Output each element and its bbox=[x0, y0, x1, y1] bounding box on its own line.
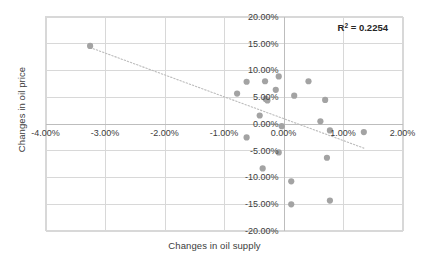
y-tick-label: 5.00% bbox=[253, 92, 279, 102]
data-point bbox=[317, 118, 323, 124]
x-tick-label: 1.00% bbox=[330, 128, 356, 138]
x-tick-label: -3.00% bbox=[91, 128, 120, 138]
y-tick-label: 20.00% bbox=[248, 12, 279, 22]
y-tick-label: -10.00% bbox=[245, 172, 279, 182]
scatter-chart: Changes in oil price Changes in oil supp… bbox=[0, 0, 429, 262]
data-point bbox=[291, 93, 297, 99]
data-point bbox=[262, 78, 268, 84]
x-tick-label: -4.00% bbox=[31, 128, 60, 138]
r-squared-text: R2 = 0.2254 bbox=[338, 22, 389, 33]
y-tick-label: 15.00% bbox=[248, 39, 279, 49]
y-tick-label: -5.00% bbox=[250, 146, 279, 156]
data-point bbox=[260, 165, 266, 171]
y-axis-tick-labels: 20.00%15.00%10.00%5.00%0.00%-5.00%-10.00… bbox=[245, 12, 279, 236]
y-tick-label: 10.00% bbox=[248, 65, 279, 75]
data-point bbox=[234, 90, 240, 96]
data-point bbox=[324, 155, 330, 161]
y-tick-label: 0.00% bbox=[253, 119, 279, 129]
data-point bbox=[288, 178, 294, 184]
data-point bbox=[288, 201, 294, 207]
data-point bbox=[322, 97, 328, 103]
y-tick-label: -15.00% bbox=[245, 199, 279, 209]
data-point bbox=[305, 78, 311, 84]
x-tick-label: 0.00% bbox=[271, 128, 297, 138]
y-tick-label: -20.00% bbox=[245, 226, 279, 236]
data-points bbox=[87, 43, 367, 208]
x-tick-label: 2.00% bbox=[390, 128, 416, 138]
r-squared-annotation: R2 = 0.2254 bbox=[338, 22, 389, 33]
data-point bbox=[257, 112, 263, 118]
x-tick-label: -1.00% bbox=[210, 128, 239, 138]
plot-area: -4.00%-3.00%-2.00%-1.00%0.00%1.00%2.00% … bbox=[0, 0, 429, 262]
data-point bbox=[244, 134, 250, 140]
data-point bbox=[87, 43, 93, 49]
data-point bbox=[361, 129, 367, 135]
data-point bbox=[327, 197, 333, 203]
x-tick-label: -2.00% bbox=[150, 128, 179, 138]
x-axis-tick-labels: -4.00%-3.00%-2.00%-1.00%0.00%1.00%2.00% bbox=[31, 128, 415, 138]
data-point bbox=[244, 79, 250, 85]
